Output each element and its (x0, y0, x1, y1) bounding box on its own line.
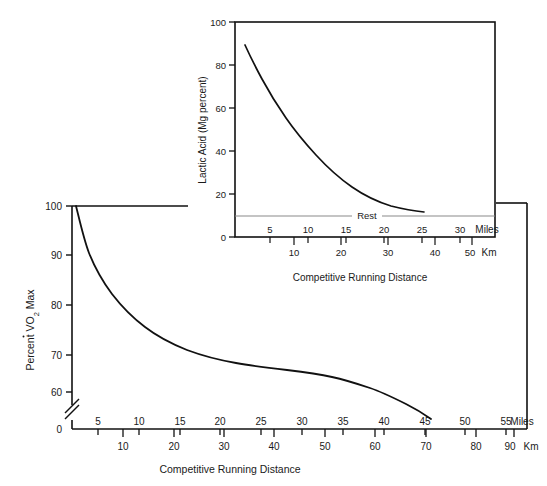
main-x-axis-title: Competitive Running Distance (159, 463, 300, 475)
main-data-curve (76, 206, 431, 419)
main-miles-label-50: 50 (459, 416, 471, 427)
inset-miles-unit-label: Miles (475, 224, 498, 235)
main-y-tick-label-70: 70 (51, 350, 63, 361)
inset-y-tick-label-80: 80 (215, 60, 226, 71)
inset-y-tick-label-100: 100 (210, 17, 226, 28)
main-km-label-70: 70 (420, 441, 432, 452)
inset-km-label-10: 10 (289, 247, 300, 258)
inset-y-tick-label-40: 40 (215, 146, 226, 157)
main-chart: 100 90 80 70 60 0 Percent VO2 Max (23, 201, 539, 475)
inset-y-tick-label-60: 60 (215, 103, 226, 114)
inset-y-tick-label-20: 20 (215, 189, 226, 200)
main-miles-unit-label: Miles (510, 416, 533, 427)
main-km-label-30: 30 (218, 441, 230, 452)
main-x-ticks-km (123, 429, 514, 437)
inset-chart: 100 80 60 40 20 0 Lactic Acid (Mg percen… (197, 17, 499, 283)
main-km-label-50: 50 (319, 441, 331, 452)
main-km-label-90: 90 (504, 441, 516, 452)
inset-y-tick-label-0: 0 (221, 232, 226, 243)
main-km-unit-label: Km (524, 441, 539, 452)
figure-svg: 100 90 80 70 60 0 Percent VO2 Max (0, 0, 547, 486)
inset-frame (235, 22, 495, 237)
main-km-label-80: 80 (470, 441, 482, 452)
main-miles-label-15: 15 (174, 416, 186, 427)
v-dot-mark (23, 336, 25, 338)
inset-miles-label-15: 15 (341, 224, 352, 235)
y-title-prefix: Percent (24, 332, 36, 371)
main-miles-label-10: 10 (133, 416, 145, 427)
inset-x-axis-title: Competitive Running Distance (293, 272, 428, 283)
main-miles-label-20: 20 (214, 416, 226, 427)
inset-data-curve (245, 45, 424, 212)
inset-miles-label-20: 20 (379, 224, 390, 235)
main-y-axis-title: Percent VO2 Max (23, 289, 41, 371)
inset-km-label-30: 30 (383, 247, 394, 258)
figure-container: 100 90 80 70 60 0 Percent VO2 Max (0, 0, 547, 486)
inset-y-ticks (229, 22, 235, 237)
main-y-tick-label-60: 60 (51, 387, 63, 398)
main-miles-label-25: 25 (255, 416, 267, 427)
main-km-label-20: 20 (168, 441, 180, 452)
y-title-v-dot: V (24, 324, 36, 331)
svg-text:Percent VO2 Max: Percent VO2 Max (24, 289, 41, 371)
main-y-tick-label-0: 0 (56, 424, 62, 435)
main-miles-label-35: 35 (337, 416, 349, 427)
inset-km-label-20: 20 (336, 247, 347, 258)
main-miles-label-5: 5 (95, 416, 101, 427)
y-title-suffix: Max (24, 289, 36, 313)
main-x-ticks-miles (98, 429, 506, 435)
rest-reference-line: Rest (235, 210, 495, 221)
main-km-label-40: 40 (268, 441, 280, 452)
inset-miles-label-10: 10 (303, 224, 314, 235)
inset-miles-label-5: 5 (267, 224, 272, 235)
main-miles-label-30: 30 (296, 416, 308, 427)
main-km-label-60: 60 (369, 441, 381, 452)
main-y-tick-label-100: 100 (45, 201, 62, 212)
inset-miles-label-25: 25 (417, 224, 428, 235)
main-miles-label-40: 40 (378, 416, 390, 427)
y-title-o: O (24, 316, 36, 324)
inset-km-label-40: 40 (430, 247, 441, 258)
rest-label: Rest (357, 210, 377, 221)
inset-miles-label-30: 30 (455, 224, 466, 235)
main-y-tick-label-80: 80 (51, 300, 63, 311)
inset-km-unit-label: Km (482, 247, 497, 258)
main-y-ticks (66, 206, 72, 392)
main-km-label-10: 10 (117, 441, 129, 452)
inset-y-axis-title: Lactic Acid (Mg percent) (197, 76, 208, 183)
main-y-tick-label-90: 90 (51, 250, 63, 261)
inset-x-ticks-km (294, 237, 472, 245)
inset-km-label-50: 50 (465, 247, 476, 258)
inset-x-ticks-miles (270, 237, 460, 243)
